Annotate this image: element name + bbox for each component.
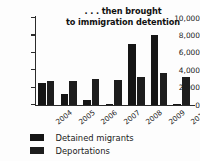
x-axis-tick-label: 2009 (167, 108, 187, 126)
y-axis-tick (31, 104, 36, 105)
bar (160, 73, 168, 105)
x-axis-tick-label: 2005 (76, 108, 96, 126)
bar (128, 44, 136, 105)
bar-group (150, 0, 173, 105)
bar-group (105, 0, 128, 105)
bar (106, 104, 114, 105)
bar (173, 104, 181, 105)
legend-label: Detained migrants (56, 133, 134, 143)
y-axis-tick (31, 17, 36, 18)
y-axis-tick (31, 52, 36, 53)
bar-group (83, 0, 106, 105)
bar (182, 77, 190, 105)
chart-legend: Detained migrantsDeportations (30, 131, 200, 157)
x-axis-tick-label: 2008 (144, 108, 164, 126)
bar-group (128, 0, 151, 105)
bar (92, 79, 100, 105)
bar (69, 81, 77, 105)
bar (114, 80, 122, 105)
legend-swatch (30, 134, 44, 141)
y-axis-tick (31, 87, 36, 88)
legend-swatch (30, 147, 44, 154)
y-axis-tick (31, 69, 36, 70)
bar-series-container (36, 0, 194, 105)
bar (61, 94, 69, 105)
x-axis-tick-label: 2010 (189, 108, 200, 126)
bar (38, 83, 46, 105)
bar (83, 100, 91, 105)
x-axis-tick-label: 2004 (54, 108, 74, 126)
x-axis-tick-label: 2007 (122, 108, 142, 126)
y-axis-tick (31, 34, 36, 35)
bar-group (60, 0, 83, 105)
legend-item[interactable]: Detained migrants (30, 131, 200, 144)
x-axis-tick-label: 2006 (99, 108, 119, 126)
bar (137, 77, 145, 105)
x-axis-labels: 2004200520062007200820092010 (36, 106, 196, 128)
bar (47, 81, 55, 105)
legend-item[interactable]: Deportations (30, 144, 200, 157)
legend-label: Deportations (56, 146, 110, 156)
bar-group (38, 0, 61, 105)
bar (151, 35, 159, 105)
bar-group (173, 0, 196, 105)
bar-chart: . . . then brought to immigration detent… (0, 0, 200, 161)
